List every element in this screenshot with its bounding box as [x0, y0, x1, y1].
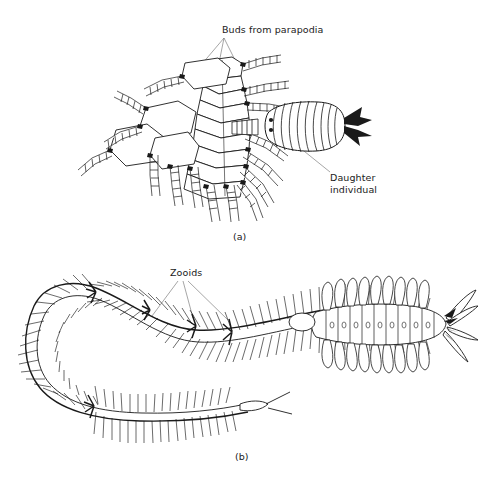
label-buds-from-parapodia: Buds from parapodia: [222, 24, 323, 36]
label-zooids: Zooids: [170, 267, 202, 279]
tail-tip: [240, 392, 292, 414]
eye-spot-lower: [269, 128, 273, 132]
worm-head-end: [312, 304, 447, 345]
panel-label-a: (a): [233, 231, 246, 242]
panel-label-b: (b): [235, 451, 248, 462]
label-daughter-line2: individual: [330, 184, 377, 195]
panel-a-drawing: [78, 38, 372, 222]
connecting-stalk: [232, 119, 258, 135]
panel-b-drawing: [18, 274, 478, 443]
daughter-individual: [265, 101, 372, 152]
eye-spot-upper: [269, 118, 273, 122]
head-tentacles: [443, 290, 478, 362]
head-parapodia-lower: [322, 340, 429, 373]
intermediate-zooid: [289, 313, 315, 331]
tail-cirri: [344, 107, 372, 146]
label-daughter-individual: Daughterindividual: [330, 172, 377, 195]
label-daughter-line1: Daughter: [330, 172, 375, 183]
figure-container: Buds from parapodia Daughterindividual Z…: [0, 0, 483, 478]
